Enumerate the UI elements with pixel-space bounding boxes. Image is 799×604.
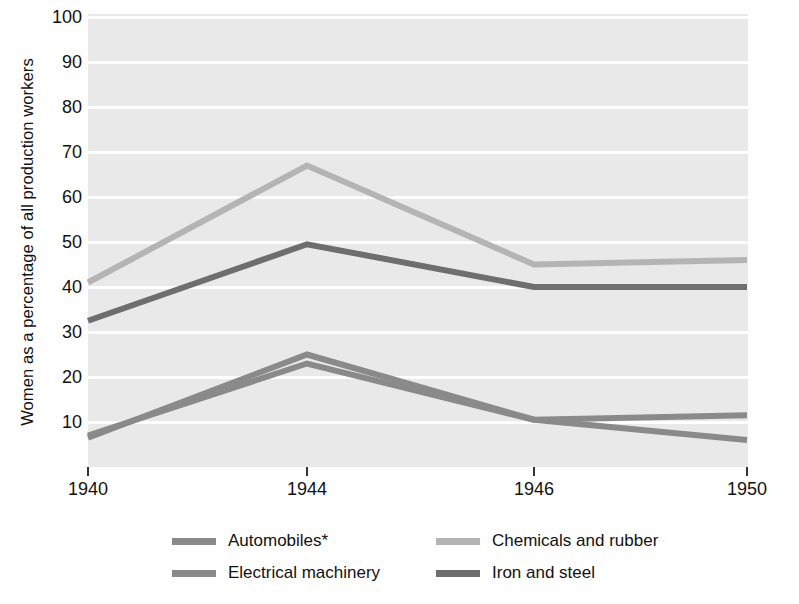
line-chart: Women as a percentage of all production … (0, 0, 799, 604)
legend-label: Automobiles* (228, 531, 328, 551)
plot-area (88, 14, 748, 467)
y-tick-label: 70 (10, 143, 82, 161)
y-tick-label: 10 (10, 413, 82, 431)
series-line (88, 244, 747, 321)
legend-swatch-icon (436, 570, 480, 577)
x-tick-label: 1944 (262, 479, 352, 500)
x-tick-label: 1946 (489, 479, 579, 500)
legend-swatch-icon (172, 538, 216, 545)
x-axis: 1940194419461950 (88, 467, 748, 507)
legend-label: Electrical machinery (228, 563, 380, 583)
series-line (88, 355, 747, 441)
y-tick-label: 40 (10, 278, 82, 296)
x-tick-mark (306, 467, 308, 476)
y-tick-label: 30 (10, 323, 82, 341)
legend-swatch-icon (436, 538, 480, 545)
y-tick-label: 90 (10, 53, 82, 71)
series-lines (88, 14, 748, 467)
y-tick-label: 100 (10, 8, 82, 26)
legend-item[interactable]: Chemicals and rubber (436, 531, 696, 551)
chart-legend: Automobiles*Chemicals and rubberElectric… (172, 525, 732, 591)
y-tick-label: 80 (10, 98, 82, 116)
legend-label: Iron and steel (492, 563, 595, 583)
y-axis-tick-labels: 102030405060708090100 (6, 0, 82, 604)
legend-item[interactable]: Iron and steel (436, 563, 696, 583)
y-tick-label: 60 (10, 188, 82, 206)
y-tick-label: 20 (10, 368, 82, 386)
legend-item[interactable]: Automobiles* (172, 531, 436, 551)
legend-label: Chemicals and rubber (492, 531, 658, 551)
x-tick-mark (87, 467, 89, 476)
legend-item[interactable]: Electrical machinery (172, 563, 436, 583)
legend-swatch-icon (172, 570, 216, 577)
x-tick-mark (533, 467, 535, 476)
x-tick-label: 1940 (43, 479, 133, 500)
x-tick-mark (746, 467, 748, 476)
y-tick-label: 50 (10, 233, 82, 251)
x-tick-label: 1950 (702, 479, 792, 500)
